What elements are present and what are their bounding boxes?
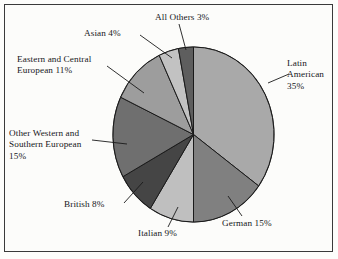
pie-label-british: British 8%	[64, 199, 105, 210]
pie-label-latin-american: Latin American 35%	[287, 58, 324, 92]
leader-line-latin-american	[268, 74, 289, 83]
pie-chart-figure: All Others 3% Asian 4% Eastern and Centr…	[0, 0, 338, 259]
pie-label-italian: Italian 9%	[138, 228, 177, 239]
pie-label-german: German 15%	[222, 218, 272, 229]
pie-label-eastern-central: Eastern and Central European 11%	[17, 54, 91, 77]
pie-label-other-western-southern: Other Western and Southern European 15%	[9, 128, 81, 162]
pie-label-all-others: All Others 3%	[155, 12, 209, 23]
leader-line-all-others	[179, 24, 186, 50]
pie-label-asian: Asian 4%	[84, 28, 121, 39]
leader-line-asian	[140, 35, 172, 58]
pie-slice-group	[113, 47, 274, 222]
